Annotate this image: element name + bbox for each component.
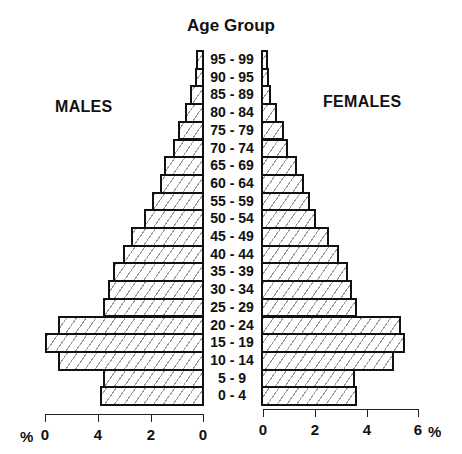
female-axis-tick-label: 6 [408,421,428,438]
female-x-axis [263,409,419,410]
age-group-label: 95 - 99 [205,51,259,68]
age-group-label: 30 - 34 [205,281,259,298]
age-group-label: 60 - 64 [205,175,259,192]
male-axis-tick-label: 2 [141,426,161,443]
male-axis-tick-label: 0 [35,426,55,443]
male-axis-tick-label: 0 [193,426,213,443]
age-group-label: 45 - 49 [205,228,259,245]
female-axis-tick-label: 4 [357,421,377,438]
age-group-label: 35 - 39 [205,263,259,280]
age-group-label: 15 - 19 [205,334,259,351]
population-pyramid-chart: Age Group MALES FEMALES 95 - 9990 - 9585… [0,0,462,454]
age-group-label: 70 - 74 [205,140,259,157]
female-bar [261,386,357,406]
male-x-axis [45,414,203,415]
age-group-label: 40 - 44 [205,246,259,263]
female-unit-label: % [428,423,441,440]
age-group-label: 50 - 54 [205,210,259,227]
males-label: MALES [55,98,113,116]
chart-title: Age Group [0,16,462,36]
age-group-label: 90 - 95 [205,69,259,86]
male-unit-label: % [20,428,33,445]
male-axis-tick [45,414,46,422]
age-group-label: 85 - 89 [205,86,259,103]
age-group-label: 65 - 69 [205,157,259,174]
male-axis-tick [203,414,204,422]
age-group-label: 75 - 79 [205,122,259,139]
female-axis-tick [263,409,264,417]
females-label: FEMALES [323,93,402,111]
age-group-label: 5 - 9 [205,370,259,387]
male-bar [100,386,204,406]
female-axis-tick [418,409,419,417]
age-group-label: 0 - 4 [205,387,259,404]
age-group-label: 25 - 29 [205,299,259,316]
age-group-label: 20 - 24 [205,317,259,334]
age-group-label: 55 - 59 [205,193,259,210]
female-axis-tick-label: 2 [305,421,325,438]
male-axis-tick [98,414,99,422]
female-axis-tick [315,409,316,417]
male-axis-tick [151,414,152,422]
female-axis-tick-label: 0 [253,421,273,438]
age-group-label: 10 - 14 [205,352,259,369]
age-group-label: 80 - 84 [205,104,259,121]
female-axis-tick [367,409,368,417]
male-axis-tick-label: 4 [88,426,108,443]
